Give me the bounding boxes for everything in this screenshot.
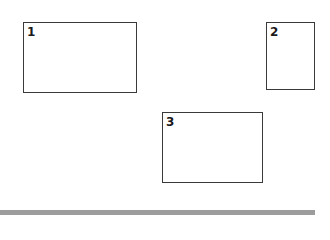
region-label-2: 2	[270, 25, 278, 39]
bottom-bar	[0, 210, 315, 215]
region-box-2: 2	[266, 22, 315, 90]
region-label-3: 3	[166, 115, 174, 129]
region-box-3: 3	[162, 112, 263, 183]
region-box-1: 1	[23, 22, 137, 93]
region-label-1: 1	[27, 25, 35, 39]
